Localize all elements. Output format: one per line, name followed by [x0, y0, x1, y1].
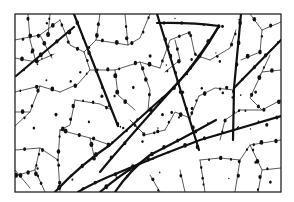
- vein-dot: [161, 59, 164, 62]
- vein-dot: [118, 68, 120, 71]
- vein-dot: [207, 122, 209, 124]
- vein-dot: [150, 112, 152, 115]
- vein-dot: [261, 35, 263, 38]
- vein-dot: [51, 23, 55, 28]
- areole-dot: [191, 107, 194, 111]
- vein-dot: [125, 36, 128, 40]
- areole-dot: [254, 161, 256, 164]
- vein-dot: [40, 182, 43, 185]
- vein-dot: [128, 167, 131, 171]
- vein-dot: [26, 17, 29, 21]
- vein-dot: [156, 129, 159, 133]
- areole-dot: [201, 87, 203, 90]
- vein-dot: [58, 181, 61, 185]
- vein-dot: [198, 54, 201, 58]
- vein-dot: [57, 149, 61, 154]
- vein-dot: [142, 132, 145, 136]
- vein-dot: [221, 130, 223, 133]
- vein-dot: [107, 142, 111, 147]
- vein-dot: [191, 125, 195, 130]
- vein-dot: [70, 175, 72, 178]
- vein-dot: [130, 41, 133, 45]
- vein-dot: [57, 159, 59, 162]
- vein-dot: [176, 47, 179, 51]
- vein-dot: [230, 43, 233, 47]
- vein-dot: [42, 41, 46, 46]
- vein-dot: [231, 129, 234, 132]
- vein-dot: [167, 45, 169, 48]
- areole-dot: [161, 113, 164, 116]
- vein-dot: [270, 68, 274, 73]
- vein-dot: [48, 17, 50, 20]
- vein-dot: [22, 38, 24, 41]
- vein-dot: [38, 153, 40, 156]
- vein-dot: [23, 69, 25, 72]
- vein-dot: [46, 32, 50, 37]
- vein-dot: [167, 151, 169, 153]
- vein-dot: [257, 188, 259, 191]
- areole-dot: [238, 126, 239, 128]
- vein-dot: [101, 39, 104, 43]
- vein-dot: [78, 133, 81, 137]
- areole-dot: [215, 52, 216, 54]
- areole-dot: [222, 91, 224, 94]
- areole-dot: [37, 175, 39, 178]
- vein-dot: [246, 54, 250, 59]
- vein-dot: [168, 121, 170, 124]
- areole-dot: [100, 95, 103, 99]
- vein-dot: [180, 21, 183, 24]
- vein-dot: [123, 99, 127, 104]
- vein-dot: [92, 101, 95, 104]
- vein-dot: [149, 107, 153, 112]
- vein-dot: [97, 22, 100, 26]
- vein-dot: [116, 176, 118, 179]
- areole-dot: [36, 167, 38, 170]
- areole-dot: [120, 126, 122, 128]
- vein-dot: [26, 170, 29, 175]
- vein-dot: [87, 51, 90, 55]
- venation-drawing: [0, 0, 294, 202]
- vein-dot: [67, 29, 71, 34]
- areole-dot: [88, 121, 90, 124]
- vein-dot: [253, 17, 256, 22]
- vein-dot: [50, 87, 54, 92]
- areole-dot: [71, 178, 73, 180]
- vein-dot: [67, 40, 70, 44]
- vein-dot: [19, 173, 23, 178]
- vein-dot: [123, 141, 126, 145]
- vein-dot: [131, 164, 135, 169]
- vein-dot: [195, 99, 197, 102]
- areole-dot: [79, 71, 81, 74]
- areole-dot: [157, 127, 158, 129]
- vein-dot: [110, 156, 113, 160]
- vein-dot: [94, 152, 98, 157]
- areole-dot: [231, 96, 233, 98]
- vein-dot: [108, 104, 111, 107]
- vein-dot: [86, 73, 88, 75]
- vein-dot: [35, 59, 39, 64]
- areole-dot: [152, 158, 154, 160]
- areole-dot: [201, 177, 203, 180]
- vein-dot: [206, 39, 210, 44]
- vein-dot: [216, 55, 218, 58]
- vein-dot: [104, 184, 108, 189]
- vein-dot: [37, 34, 40, 38]
- vein-dot: [183, 143, 187, 148]
- areole-dot: [46, 79, 48, 81]
- vein-dot: [230, 158, 232, 161]
- areole-dot: [174, 18, 175, 20]
- vein-dot: [162, 145, 165, 149]
- vein-dot: [253, 65, 256, 69]
- vein-dot: [111, 141, 113, 144]
- areole-dot: [181, 90, 184, 94]
- vein-dot: [61, 126, 65, 131]
- vein-dot: [172, 86, 176, 91]
- vein-dot: [200, 166, 202, 169]
- areole-dot: [170, 111, 173, 114]
- vein-dot: [238, 109, 240, 112]
- vein-dot: [148, 62, 152, 67]
- vein-dot: [134, 124, 136, 127]
- areole-dot: [159, 172, 160, 174]
- vein-dot: [57, 163, 60, 166]
- vein-dot: [21, 109, 25, 114]
